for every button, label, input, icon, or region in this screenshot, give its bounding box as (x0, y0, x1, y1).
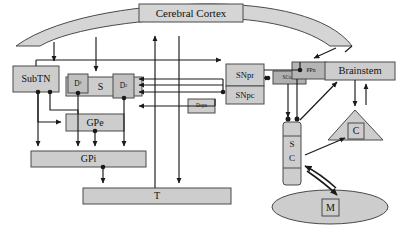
diagram-canvas (0, 0, 399, 229)
muscle-inner-box (322, 199, 339, 216)
thalamus-box (83, 188, 231, 204)
snpc-box (226, 86, 264, 104)
superior-colliculus-column (283, 122, 301, 185)
snpr-box (226, 64, 264, 86)
brainstem-box (325, 62, 395, 80)
gpi-box (31, 151, 146, 167)
brain-circuit-diagram: Cerebral Cortex SubTN S D1 D2 GPe GPi T … (0, 0, 399, 229)
d1-box (68, 74, 88, 93)
cerebellum-inner-box (348, 123, 364, 139)
d2-box (113, 74, 134, 98)
gpe-box (66, 114, 124, 131)
subtn-box (13, 66, 59, 92)
cerebral-cortex-box (139, 4, 243, 22)
